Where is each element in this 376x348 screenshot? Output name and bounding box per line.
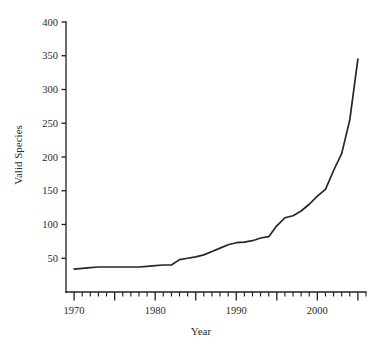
y-tick-label: 300 — [42, 84, 58, 95]
x-axis-tick-labels: 1970198019902000 — [64, 305, 328, 316]
y-axis-title: Valid Species — [12, 125, 24, 185]
y-tick-label: 200 — [42, 152, 58, 163]
x-tick-label: 1990 — [226, 305, 247, 316]
y-tick-label: 150 — [42, 185, 58, 196]
chart-figure: 50100150200250300350400 1970198019902000… — [0, 0, 376, 348]
y-tick-label: 250 — [42, 118, 58, 129]
data-series-line — [74, 59, 358, 269]
y-axis-tick-labels: 50100150200250300350400 — [42, 17, 58, 264]
x-tick-label: 1980 — [145, 305, 166, 316]
x-tick-label: 2000 — [307, 305, 328, 316]
y-tick-label: 350 — [42, 50, 58, 61]
y-tick-label: 100 — [42, 219, 58, 230]
line-chart-canvas: 50100150200250300350400 1970198019902000… — [0, 0, 376, 348]
x-axis-ticks — [74, 292, 366, 301]
y-tick-label: 50 — [48, 253, 59, 264]
x-axis-title: Year — [191, 325, 212, 337]
y-tick-label: 400 — [42, 17, 58, 28]
y-axis-ticks — [62, 22, 67, 258]
x-tick-label: 1970 — [64, 305, 85, 316]
